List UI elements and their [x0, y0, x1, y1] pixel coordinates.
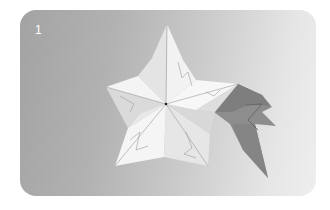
- origami-star-illustration: [20, 10, 316, 196]
- photo-panel: 1: [20, 10, 316, 196]
- star-center-point: [165, 103, 168, 106]
